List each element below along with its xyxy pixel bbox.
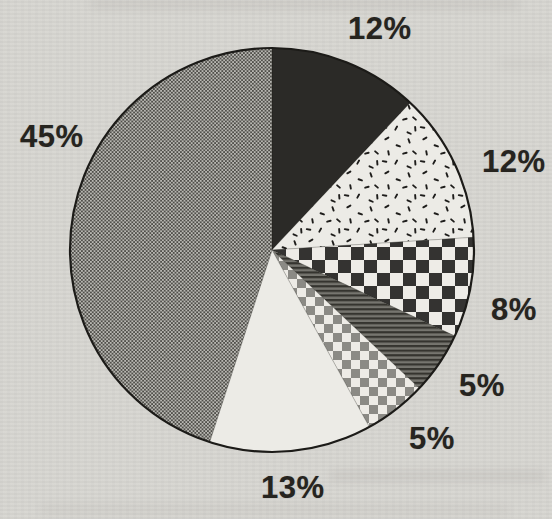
pie-chart: [0, 0, 552, 519]
slice-label: 45%: [20, 121, 84, 152]
slice-label: 13%: [261, 472, 325, 503]
scanned-page: 12%12%8%5%5%13%45%: [0, 0, 552, 519]
slice-label: 5%: [409, 423, 455, 454]
slice-label: 8%: [491, 294, 537, 325]
slice-label: 12%: [482, 146, 546, 177]
slice-label: 5%: [459, 370, 505, 401]
slice-label: 12%: [348, 13, 412, 44]
